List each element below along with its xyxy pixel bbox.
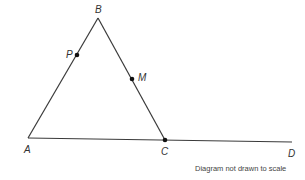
diagram-svg: B A C D P M Diagram not drawn to scale [0, 0, 305, 180]
point-c [163, 138, 168, 143]
label-a: A [23, 144, 31, 155]
segment-ab [28, 18, 98, 138]
label-m: M [138, 72, 147, 83]
segment-ad [28, 138, 292, 142]
diagram-caption: Diagram not drawn to scale [195, 164, 286, 173]
geometry-diagram: B A C D P M Diagram not drawn to scale [0, 0, 305, 180]
label-d: D [288, 148, 295, 159]
label-c: C [161, 146, 169, 157]
point-p [75, 53, 80, 58]
label-p: P [66, 49, 73, 60]
point-m [130, 77, 135, 82]
label-b: B [95, 4, 102, 15]
